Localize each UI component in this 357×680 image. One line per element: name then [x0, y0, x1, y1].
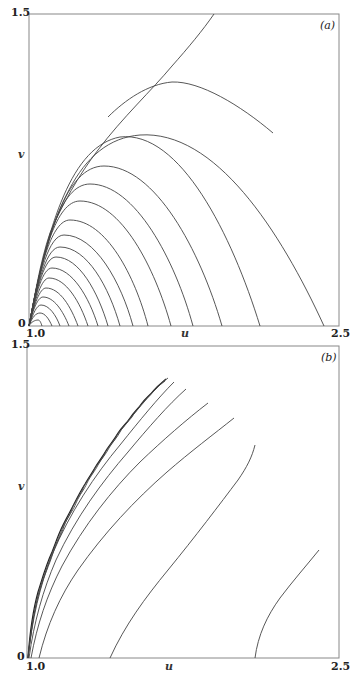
x-tick-left-b: 1.0 — [26, 660, 45, 673]
panel-b: 1.5 0 1.0 2.5 u v (b) — [0, 0, 357, 680]
panel-label-b: (b) — [321, 351, 337, 364]
x-axis-label-b: u — [165, 660, 173, 673]
x-tick-right-b: 2.5 — [331, 660, 350, 673]
plot-area-b — [0, 0, 357, 680]
y-axis-label-b: v — [18, 480, 24, 493]
y-tick-bottom-b: 0 — [17, 650, 25, 663]
y-tick-top-b: 1.5 — [11, 338, 30, 351]
